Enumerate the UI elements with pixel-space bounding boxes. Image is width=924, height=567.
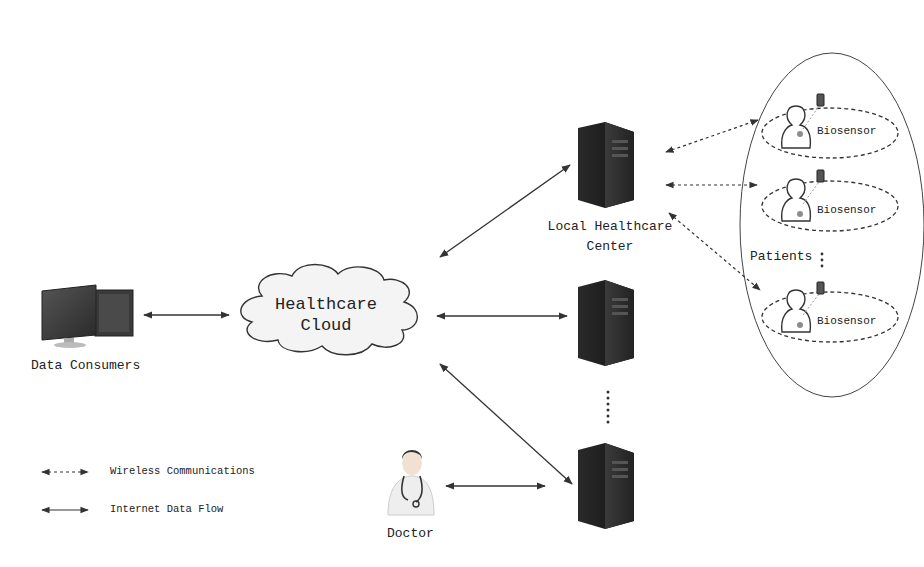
legend-internet-label: Internet Data Flow	[110, 503, 223, 515]
cloud-label-line2: Cloud	[266, 315, 386, 336]
healthcare-cloud-label: Healthcare Cloud	[266, 294, 386, 336]
local-center-label-line2: Center	[540, 237, 680, 257]
legend-wireless-label: Wireless Communications	[110, 465, 255, 477]
patient-2	[762, 170, 898, 231]
wireless-communication-edges	[666, 120, 760, 290]
server-tower-icon-2	[578, 280, 634, 366]
patients-group-outline	[740, 53, 924, 397]
biosensor-label-3: Biosensor	[817, 315, 876, 327]
local-healthcare-center-label: Local Healthcare Center	[540, 217, 680, 257]
doctor-label: Doctor	[387, 526, 434, 541]
patient-3	[762, 282, 898, 342]
cloud-label-line1: Healthcare	[266, 294, 386, 315]
local-center-label-line1: Local Healthcare	[540, 217, 680, 237]
vertical-ellipsis-icon-patients	[821, 253, 824, 268]
vertical-ellipsis-icon	[607, 391, 610, 424]
server-tower-icon-3	[578, 443, 634, 529]
patients-label: Patients	[750, 249, 812, 264]
data-consumers-label: Data Consumers	[31, 358, 140, 373]
diagram-canvas	[0, 0, 924, 567]
doctor-icon	[388, 450, 434, 515]
desktop-computer-icon	[42, 285, 133, 348]
biosensor-label-2: Biosensor	[817, 204, 876, 216]
biosensor-label-1: Biosensor	[817, 125, 876, 137]
server-tower-icon-local-center	[578, 122, 634, 208]
